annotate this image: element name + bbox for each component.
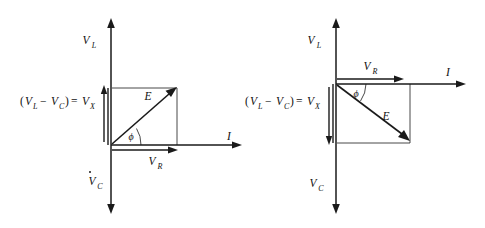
label-reactance-open-paren-left: ( [20, 95, 24, 108]
figure-canvas: V L V C I V R E ϕ ( V L − V C ) = V X [0, 0, 485, 228]
vector-VX-arrowhead-right [326, 136, 332, 145]
label-reactance-minus-right: − [265, 95, 272, 107]
vertical-axis-arrow-up-right [332, 18, 340, 28]
label-VC-sub-left: C [97, 182, 103, 191]
label-reactance-v1-sub-right: L [257, 102, 263, 111]
label-VL-right: V [307, 34, 316, 46]
label-reactance-v1-sub-left: L [32, 102, 38, 111]
label-E-left: E [143, 90, 151, 102]
phasor-diagram-figure: V L V C I V R E ϕ ( V L − V C ) = V X [0, 0, 485, 228]
label-VL-sub-left: L [91, 41, 97, 50]
horizontal-axis-arrow-left [232, 141, 242, 148]
label-VR-sub-right: R [372, 67, 378, 76]
label-phi-left: ϕ [128, 131, 133, 142]
angle-arc-left [137, 129, 142, 146]
diagram-inductive: V L V C I V R E ϕ ( V L − V C ) = V X [20, 18, 242, 214]
vector-VR-arrowhead-left [168, 147, 178, 154]
label-reactance-equals-right: = [296, 95, 303, 107]
label-reactance-right: ( V L − V C ) = V X [245, 95, 321, 111]
vertical-axis-arrow-down-left [107, 204, 115, 214]
label-reactance-close-paren-left: ) [65, 95, 69, 108]
vertical-axis-arrow-up-left [107, 18, 115, 28]
vector-VR-arrowhead-right [394, 76, 404, 83]
diagram-capacitive: V L V C I V R E ϕ ( V L − V C ) = V X [245, 18, 466, 214]
label-VR-right: V [363, 60, 372, 72]
label-VC-sub-right: C [318, 184, 324, 193]
label-E-right: E [381, 110, 389, 122]
label-VR-sub-left: R [157, 162, 163, 171]
horizontal-axis-arrow-right [456, 80, 466, 87]
label-I-left: I [226, 130, 232, 142]
label-VC-right: V [309, 177, 318, 189]
label-VC-left: V [88, 175, 97, 187]
label-reactance-result-sub-right: X [314, 102, 321, 111]
label-reactance-minus-left: − [40, 95, 47, 107]
label-VC-tick-left [89, 171, 91, 173]
label-reactance-equals-left: = [71, 95, 78, 107]
label-reactance-close-paren-right: ) [290, 95, 294, 108]
label-reactance-result-sub-left: X [89, 102, 96, 111]
vertical-axis-arrow-down-right [332, 204, 340, 214]
label-VL-sub-right: L [316, 41, 322, 50]
label-reactance-left: ( V L − V C ) = V X [20, 95, 96, 111]
label-phi-right: ϕ [353, 88, 358, 99]
vector-E-right [337, 85, 402, 134]
vector-E-left [112, 94, 169, 144]
label-reactance-open-paren-right: ( [245, 95, 249, 108]
label-VL-left: V [82, 34, 91, 46]
angle-arc-right [361, 84, 367, 101]
label-I-right: I [445, 66, 451, 78]
label-VR-left: V [148, 155, 157, 167]
vector-VX-arrowhead-left [101, 85, 107, 94]
